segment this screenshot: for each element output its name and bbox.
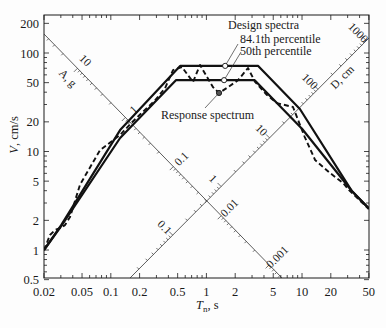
acceleration-axis-tick [224, 220, 226, 222]
percentile-50-label: 50th percentile [240, 44, 312, 58]
deformation-axis-tick [357, 46, 359, 48]
acceleration-axis-tick [95, 88, 97, 90]
y-tick-label: 100 [20, 47, 39, 61]
x-tick-label: 10 [296, 285, 309, 299]
acceleration-axis-tick [179, 174, 181, 176]
acceleration-axis-tick [174, 169, 176, 171]
percentile-84-leader-line [225, 44, 238, 66]
percentile-50-marker [221, 78, 226, 83]
response-spectrum-marker [216, 90, 221, 95]
acceleration-axis-tick [239, 235, 241, 237]
deformation-axis-tick [331, 73, 333, 75]
y-tick-label: 2 [33, 214, 39, 228]
deformation-axis-tick [215, 189, 217, 191]
deformation-axis-tick [291, 113, 293, 115]
acceleration-axis-tick [230, 227, 232, 229]
acceleration-axis-tick [176, 171, 178, 173]
acceleration-axis-tick [157, 152, 159, 154]
acceleration-axis: 1010.10.010.001A, g [44, 34, 291, 278]
deformation-axis-tick [305, 98, 307, 100]
acceleration-axis-tick [222, 218, 224, 220]
deformation-axis-tick [242, 162, 244, 164]
x-tick-label: 0.2 [132, 285, 148, 299]
acceleration-axis-tick [143, 137, 145, 139]
deformation-axis-tick-label: 1000 [346, 20, 371, 45]
deformation-axis-tick [253, 151, 255, 153]
acceleration-axis-tick-label: 0.001 [264, 243, 291, 270]
x-tick-label: 2 [232, 285, 238, 299]
design-spectra-label: Design spectra [228, 18, 300, 32]
acceleration-axis-tick [78, 71, 80, 73]
deformation-axis-tick [152, 253, 154, 255]
deformation-axis-tick [354, 50, 356, 52]
deformation-axis: 0.11101001000D, cm [130, 20, 371, 278]
y-axis-unit: , cm/s [7, 116, 21, 146]
acceleration-axis-tick [170, 167, 174, 171]
deformation-axis-tick [234, 170, 236, 172]
acceleration-axis-tick [245, 241, 247, 243]
acceleration-axis-tick [86, 79, 88, 81]
deformation-axis-tick [212, 192, 214, 194]
y-tick-label: 20 [27, 115, 40, 129]
deformation-axis-tick [282, 121, 284, 123]
response-spectrum-line [44, 65, 369, 250]
y-axis: 0.5125102050100200 [20, 17, 369, 287]
x-tick-label: 20 [325, 285, 338, 299]
deformation-axis-tick [217, 187, 219, 189]
x-tick-label: 50 [363, 285, 376, 299]
acceleration-axis-tick [182, 177, 184, 179]
x-tick-label: 5 [270, 285, 276, 299]
deformation-axis-tick [309, 95, 311, 97]
acceleration-axis-tick [122, 117, 126, 121]
chart-canvas: 0.020.050.10.20.51251020500.512510205010… [0, 0, 386, 328]
deformation-axis-tick [345, 58, 347, 60]
x-axis-unit: , s [207, 298, 218, 312]
acceleration-axis-tick [149, 143, 151, 145]
deformation-axis-tick [350, 54, 352, 56]
acceleration-axis-tick [109, 103, 111, 105]
deformation-axis-tick [146, 259, 148, 261]
deformation-axis-tick [266, 134, 270, 138]
acceleration-axis-tick [134, 128, 136, 130]
acceleration-axis-tick [275, 272, 277, 274]
deformation-axis-tick [302, 102, 304, 104]
acceleration-axis-tick [234, 230, 236, 232]
y-tick-label: 0.5 [23, 273, 39, 287]
deformation-axis-tick [194, 210, 196, 212]
acceleration-axis-tick-label: 10 [77, 52, 94, 69]
acceleration-axis-tick [80, 73, 82, 75]
y-axis-title: V, cm/s [7, 116, 21, 154]
deformation-axis-line [130, 38, 369, 278]
design-spectrum-84th-line [44, 66, 369, 250]
y-tick-label: 200 [20, 17, 39, 31]
acceleration-axis-tick [218, 216, 222, 220]
x-tick-label: 1 [203, 285, 209, 299]
x-axis-title: Tn, s [196, 298, 219, 314]
x-tick-label: 0.5 [170, 285, 186, 299]
deformation-axis-tick [200, 204, 202, 206]
deformation-axis-tick [339, 64, 341, 66]
deformation-axis-tick [137, 267, 139, 269]
y-tick-label: 1 [33, 244, 39, 258]
acceleration-axis-tick-label: 0.1 [172, 149, 191, 168]
acceleration-axis-tick [101, 94, 103, 96]
acceleration-axis-tick [186, 181, 188, 183]
deformation-axis-tick [186, 219, 188, 221]
acceleration-axis-tick [197, 192, 199, 194]
deformation-axis-tick [266, 138, 268, 140]
deformation-axis-tick [166, 238, 168, 240]
x-tick-label: 0.1 [103, 285, 119, 299]
deformation-axis-tick [163, 241, 165, 243]
series-group [44, 65, 369, 250]
acceleration-axis-tick [253, 250, 255, 252]
deformation-axis-tick [169, 236, 171, 238]
acceleration-axis-tick [227, 223, 229, 225]
plot-frame [44, 15, 369, 278]
y-tick-label: 5 [33, 175, 39, 189]
deformation-axis-tick [248, 155, 250, 157]
acceleration-axis-tick [74, 68, 78, 72]
y-tick-label: 50 [27, 76, 40, 90]
deformation-axis-tick [311, 92, 313, 94]
acceleration-axis-tick [138, 132, 140, 134]
acceleration-axis-tick [47, 39, 49, 41]
